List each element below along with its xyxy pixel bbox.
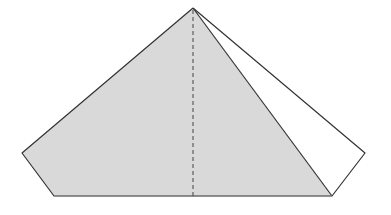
pyramid-diagram — [0, 0, 391, 215]
